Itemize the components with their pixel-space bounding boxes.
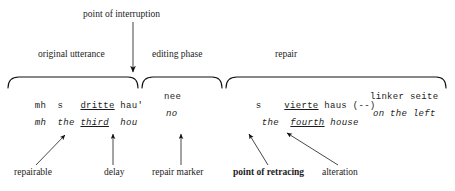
arrow-alteration [287, 133, 338, 165]
transcript-surface-repair-b: linker seite [370, 93, 438, 102]
callout-alteration: alteration [322, 168, 358, 178]
callout-delay: delay [104, 168, 125, 178]
label-original-utterance: original utterance [38, 50, 105, 60]
transcript-gloss-original-pre: mh the [35, 118, 81, 128]
label-point-of-interruption: point of interruption [83, 10, 160, 20]
transcript-gloss-repair-a-pre: the [262, 118, 291, 128]
callout-repair-marker: repair marker [152, 168, 203, 178]
brace-editing-phase [142, 77, 222, 88]
brace-original-utterance [8, 77, 138, 88]
transcript-gloss-repair-a-post: house [325, 118, 359, 128]
transcript-surface-editing: nee [164, 93, 181, 102]
transcript-gloss-editing: no [166, 110, 177, 119]
transcript-gloss-original: mh the third hou [12, 110, 137, 137]
callout-repairable: repairable [14, 168, 52, 178]
transcript-gloss-repair-b: on the left [373, 110, 436, 119]
arrow-repairable [36, 135, 65, 165]
brace-repair [226, 77, 446, 88]
callout-point-of-retracing: point of retracing [233, 168, 304, 178]
label-editing-phase: editing phase [152, 50, 202, 60]
figure-canvas: point of interruption original utterance… [0, 0, 455, 191]
transcript-gloss-original-post: hou [109, 118, 138, 128]
transcript-gloss-repair-a-underlined: fourth [290, 118, 324, 128]
label-repair: repair [275, 50, 297, 60]
transcript-gloss-original-underlined: third [80, 118, 109, 128]
transcript-gloss-repair-a: the fourth house [239, 110, 359, 137]
arrow-point-of-retracing [249, 134, 268, 165]
